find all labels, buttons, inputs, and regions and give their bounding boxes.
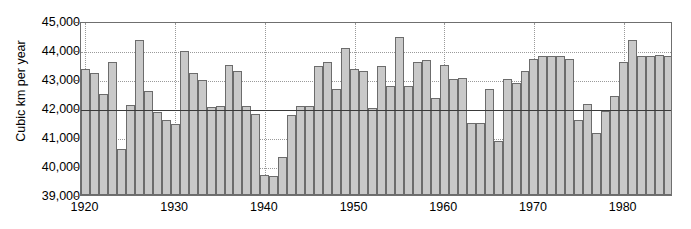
reference-line — [81, 110, 671, 111]
bar — [251, 114, 260, 195]
bar — [278, 157, 287, 195]
bar — [260, 175, 269, 195]
bar — [341, 48, 350, 195]
bar — [646, 56, 655, 195]
bar — [171, 124, 180, 195]
bar — [350, 69, 359, 195]
y-axis-tick-mark — [74, 196, 78, 197]
bar — [476, 123, 485, 195]
bar — [90, 73, 99, 195]
bar — [233, 71, 242, 195]
x-axis-tick-label: 1960 — [429, 200, 457, 214]
bar — [81, 69, 90, 195]
bar — [467, 123, 476, 196]
y-axis-tick-label: 44,000 — [6, 44, 80, 58]
bar — [242, 106, 251, 195]
bar — [305, 106, 314, 195]
x-axis-tick-label: 1970 — [519, 200, 547, 214]
bar — [368, 108, 377, 195]
y-axis-tick-label: 43,000 — [6, 73, 80, 87]
bar — [323, 62, 332, 195]
gridline-horizontal — [81, 52, 671, 53]
x-axis-tick-label: 1980 — [609, 200, 637, 214]
bar — [503, 79, 512, 195]
bar — [458, 78, 467, 195]
bar — [404, 86, 413, 195]
bar — [153, 112, 162, 195]
y-axis-tick-mark — [74, 138, 78, 139]
chart-container: Cubic km per year 39,00040,00041,00042,0… — [0, 0, 691, 229]
y-axis-tick-label: 41,000 — [6, 131, 80, 145]
bar — [198, 80, 207, 195]
y-axis-tick-label: 42,000 — [6, 102, 80, 116]
bar — [619, 62, 628, 195]
bar — [144, 91, 153, 195]
bar — [583, 104, 592, 195]
bar — [332, 89, 341, 195]
bar — [565, 59, 574, 195]
y-axis-tick-mark — [74, 167, 78, 168]
bar — [162, 120, 171, 195]
gridline-vertical — [265, 23, 266, 195]
bar — [216, 106, 225, 195]
bar — [637, 56, 646, 195]
bar — [512, 83, 521, 195]
y-axis-tick-label: 45,000 — [6, 15, 80, 29]
x-axis-tick-labels: 1920193019401950196019701980 — [0, 200, 691, 220]
bar — [556, 56, 565, 195]
bar — [628, 40, 637, 195]
bar — [422, 60, 431, 195]
y-axis-tick-mark — [74, 80, 78, 81]
bar — [135, 40, 144, 195]
bar — [225, 65, 234, 195]
bar — [296, 106, 305, 195]
bar — [449, 79, 458, 195]
bar — [547, 56, 556, 195]
bar — [592, 133, 601, 195]
bar — [610, 96, 619, 195]
y-axis-tick-label: 40,000 — [6, 160, 80, 174]
bar — [180, 51, 189, 195]
bar — [431, 98, 440, 195]
bar — [386, 86, 395, 195]
bar — [664, 56, 672, 195]
bar — [574, 120, 583, 195]
bar — [126, 105, 135, 195]
bar — [377, 66, 386, 195]
x-axis-tick-label: 1920 — [71, 200, 99, 214]
bar — [485, 89, 494, 195]
bar — [655, 55, 664, 195]
bar — [99, 94, 108, 196]
y-axis-tick-labels: 39,00040,00041,00042,00043,00044,00045,0… — [0, 0, 80, 229]
bar — [601, 111, 610, 195]
bar — [521, 71, 530, 195]
bar — [207, 107, 216, 195]
y-axis-tick-mark — [74, 109, 78, 110]
gridline-horizontal — [81, 81, 671, 82]
bar — [189, 73, 198, 195]
bar — [440, 65, 449, 196]
bar — [529, 59, 538, 195]
bar — [359, 71, 368, 195]
bar — [108, 62, 117, 195]
bar — [314, 66, 323, 195]
bar — [269, 176, 278, 195]
bar — [395, 37, 404, 195]
bar — [494, 141, 503, 195]
plot-area — [80, 22, 672, 196]
bar — [538, 56, 547, 195]
x-axis-tick-label: 1930 — [160, 200, 188, 214]
bar — [287, 115, 296, 195]
x-axis-tick-label: 1940 — [250, 200, 278, 214]
bar — [413, 62, 422, 195]
y-axis-tick-mark — [74, 22, 78, 23]
x-axis-tick-label: 1950 — [340, 200, 368, 214]
bar — [117, 149, 126, 195]
y-axis-tick-mark — [74, 51, 78, 52]
